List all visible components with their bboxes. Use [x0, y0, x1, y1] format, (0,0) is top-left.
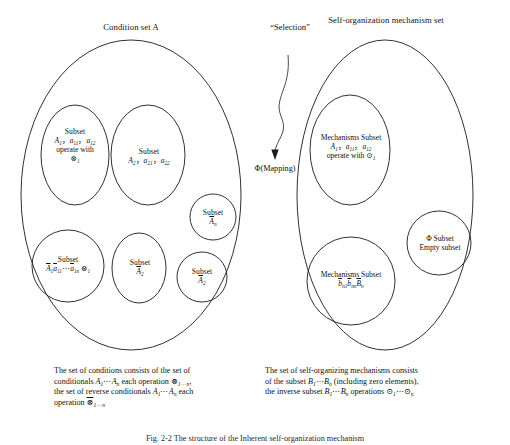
subset-a2-bar-small-label: Subset A2 — [172, 268, 232, 286]
subset-a2-label: Subset A2，a21，a22 — [106, 148, 192, 166]
mechanisms-subset-a1-line-3: operate with ⊙1 — [300, 152, 402, 161]
subset-a1-bar-series-label: Subset A1a11⋯a1n ⊗1 — [20, 256, 116, 274]
right-caption-line-1: The set of self-organizing mechanisms co… — [265, 366, 419, 377]
left-set-title: Condition set A — [0, 22, 262, 32]
subset-a1-line-2: A1，a11，a12 — [33, 137, 117, 146]
subset-a2-line-1: Subset — [106, 148, 192, 157]
mechanisms-subset-a1-line-2: A1，a11，a12 — [300, 143, 402, 152]
subset-a2-bar-small-line-2: A2 — [172, 277, 232, 286]
mechanisms-subset-a1-label: Mechanisms Subset A1，a11，a12 operate wit… — [300, 134, 402, 161]
subset-an-bar-line-2: An — [183, 218, 243, 227]
figure-canvas: Condition set A Self-organization mechan… — [0, 0, 510, 445]
right-caption-line-3: the inverse subset B1⋯Bn operations ⊙1⋯⊙… — [265, 387, 419, 398]
subset-an-bar-label: Subset An — [183, 209, 243, 227]
selection-label: “Selection” — [240, 22, 340, 32]
mechanisms-subset-a1-line-1: Mechanisms Subset — [300, 134, 402, 143]
subset-a1-line-4: ⊗1 — [33, 155, 117, 164]
left-caption-line-1: The set of conditions consists of the se… — [54, 366, 193, 377]
phi-empty-subset-line-2: Empty subset — [405, 244, 475, 253]
left-outer-ellipse — [21, 40, 241, 350]
left-caption-line-2: conditionals A1⋯An each operation ⊗1⋯n, — [54, 377, 193, 388]
left-caption-line-3: the set of reverse conditionals A1⋯An ea… — [54, 387, 193, 398]
subset-a2-bar-line-2: A2 — [110, 268, 170, 277]
mechanisms-subset-bn-line-2: bn1bnnBn — [300, 280, 402, 289]
mechanisms-subset-bn-label: Mechanisms Subset bn1bnnBn — [300, 271, 402, 289]
right-set-title-line-2: mechanism set — [392, 15, 444, 25]
subset-a1-line-1: Subset — [33, 128, 117, 137]
subset-a1-label: Subset A1，a11，a12 operate with ⊗1 — [33, 128, 117, 164]
subset-a1-bar-series-line-2: A1a11⋯a1n ⊗1 — [20, 265, 116, 274]
subset-a2-bar-label: Subset A2 — [110, 259, 170, 277]
phi-empty-subset-label: Φ Subset Empty subset — [405, 235, 475, 253]
subset-a2-line-2: A2，a21，a22 — [106, 157, 192, 166]
mapping-label: Φ(Mapping) — [225, 164, 325, 174]
left-caption-line-4: operation ⊗1⋯n — [54, 398, 193, 409]
left-caption: The set of conditions consists of the se… — [54, 366, 193, 409]
right-outer-ellipse — [297, 40, 473, 350]
selection-arrow-head — [271, 150, 278, 161]
figure-caption: Fig. 2-2 The structure of the Inherent s… — [0, 434, 510, 443]
right-caption-line-2: of the subset B1⋯Bn (including zero elem… — [265, 377, 419, 388]
right-caption: The set of self-organizing mechanisms co… — [265, 366, 419, 398]
selection-arrow-path — [275, 55, 288, 152]
